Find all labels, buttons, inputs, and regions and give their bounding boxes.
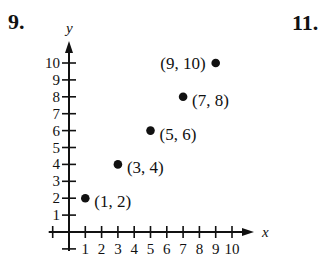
data-point — [179, 93, 188, 102]
data-point — [211, 59, 220, 68]
ticks: 1234567891012345678910 — [45, 55, 240, 257]
y-tick-label: 6 — [53, 123, 61, 139]
x-tick-label: 2 — [98, 241, 106, 257]
point-label: (5, 6) — [160, 125, 197, 144]
y-tick-label: 2 — [53, 190, 61, 206]
point-label: (3, 4) — [127, 158, 164, 177]
data-point — [114, 160, 123, 169]
data-point — [146, 126, 155, 135]
x-axis-arrow-icon — [242, 228, 254, 236]
point-label: (9, 10) — [160, 54, 205, 73]
y-tick-label: 8 — [53, 89, 61, 105]
y-tick-label: 1 — [53, 207, 61, 223]
x-axis-label: x — [261, 224, 269, 240]
scatter-plot: xy 1234567891012345678910 (1, 2)(3, 4)(5… — [0, 0, 324, 273]
x-tick-label: 5 — [147, 241, 155, 257]
x-tick-label: 6 — [163, 241, 171, 257]
data-point — [81, 194, 90, 203]
x-tick-label: 7 — [179, 241, 187, 257]
x-tick-label: 3 — [114, 241, 122, 257]
y-tick-label: 3 — [53, 173, 61, 189]
y-tick-label: 7 — [53, 106, 61, 122]
y-tick-label: 4 — [53, 156, 61, 172]
x-tick-label: 10 — [225, 241, 240, 257]
y-axis-arrow-icon — [65, 41, 73, 53]
point-label: (1, 2) — [94, 192, 131, 211]
x-tick-label: 4 — [130, 241, 138, 257]
data-points: (1, 2)(3, 4)(5, 6)(7, 8)(9, 10) — [81, 54, 229, 211]
x-tick-label: 9 — [212, 241, 220, 257]
point-label: (7, 8) — [192, 91, 229, 110]
x-tick-label: 8 — [196, 241, 204, 257]
x-tick-label: 1 — [82, 241, 90, 257]
y-tick-label: 5 — [53, 140, 61, 156]
y-axis-label: y — [64, 20, 73, 36]
y-tick-label: 10 — [45, 55, 60, 71]
y-tick-label: 9 — [53, 72, 61, 88]
